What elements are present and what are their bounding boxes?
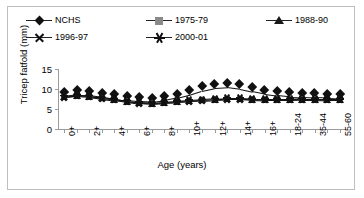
chart-figure: NCHS1975-791988-90 1996-972000-01 Tricep… xyxy=(7,6,355,190)
data-point-2000-01 xyxy=(286,95,294,103)
data-point-2000-01 xyxy=(185,96,193,104)
x-tick-label: 12+ xyxy=(219,121,228,136)
diamond-marker-icon xyxy=(35,16,45,26)
data-point-2000-01 xyxy=(60,92,68,100)
x-tick xyxy=(240,130,241,133)
y-tick xyxy=(55,109,58,110)
x-tick xyxy=(327,130,328,133)
x-tick xyxy=(290,130,291,133)
legend-row-1: NCHS1975-791988-90 xyxy=(8,13,356,28)
x-tick xyxy=(302,130,303,133)
x-tick xyxy=(340,130,341,133)
x-tick-label: 14+ xyxy=(244,121,253,136)
x-tick xyxy=(277,130,278,133)
y-tick xyxy=(55,129,58,130)
square-marker-icon xyxy=(155,17,163,25)
legend-label: NCHS xyxy=(55,16,81,25)
data-point-2000-01 xyxy=(298,95,306,103)
x-tick xyxy=(315,130,316,133)
y-tick-label: 15 xyxy=(34,65,52,74)
x-tick xyxy=(202,130,203,133)
data-point-2000-01 xyxy=(336,95,344,103)
data-point-2000-01 xyxy=(98,93,106,101)
y-axis-title: Tricep fatfold (mm) xyxy=(18,6,29,124)
x-axis-title: Age (years) xyxy=(8,159,356,170)
legend-line-sample xyxy=(266,15,292,26)
x-tick xyxy=(127,130,128,133)
legend-line-sample xyxy=(26,15,52,26)
y-axis-line xyxy=(58,69,59,129)
data-point-2000-01 xyxy=(323,95,331,103)
data-point-2000-01 xyxy=(160,98,168,106)
data-point-2000-01 xyxy=(173,97,181,105)
legend-item-2000-01[interactable]: 2000-01 xyxy=(146,30,208,45)
x-tick-label: 16+ xyxy=(269,121,278,136)
x-tick-label: 10+ xyxy=(193,121,202,136)
data-point-2000-01 xyxy=(236,94,244,102)
y-tick-label: 5 xyxy=(34,105,52,114)
triangle-marker-icon xyxy=(274,16,284,24)
data-point-2000-01 xyxy=(123,97,131,105)
data-point-2000-01 xyxy=(248,95,256,103)
x-tick xyxy=(252,130,253,133)
y-tick-label: 10 xyxy=(34,85,52,94)
data-point-2000-01 xyxy=(311,95,319,103)
x-tick xyxy=(89,130,90,133)
x-tick xyxy=(64,130,65,133)
x-tick xyxy=(102,130,103,133)
x-tick xyxy=(152,130,153,133)
legend-item-1996-97[interactable]: 1996-97 xyxy=(26,30,88,45)
legend-label: 1988-90 xyxy=(295,16,328,25)
legend-label: 1975-79 xyxy=(175,16,208,25)
y-tick xyxy=(55,89,58,90)
x-tick xyxy=(227,130,228,133)
x-tick xyxy=(164,130,165,133)
data-point-2000-01 xyxy=(73,91,81,99)
data-point-2000-01 xyxy=(198,95,206,103)
legend-label: 2000-01 xyxy=(175,33,208,42)
legend-item-nchs[interactable]: NCHS xyxy=(26,13,81,28)
legend-line-sample xyxy=(26,32,52,43)
x-tick-label: 55-60 xyxy=(344,113,353,136)
legend-item-1975-79[interactable]: 1975-79 xyxy=(146,13,208,28)
data-point-2000-01 xyxy=(211,95,219,103)
data-point-2000-01 xyxy=(273,95,281,103)
chart-legend: NCHS1975-791988-90 1996-972000-01 xyxy=(8,13,356,47)
x-tick xyxy=(265,130,266,133)
data-point-2000-01 xyxy=(148,99,156,107)
x-marker-icon xyxy=(34,33,45,42)
y-tick-label: 0 xyxy=(34,125,52,134)
x-tick xyxy=(77,130,78,133)
x-tick xyxy=(114,130,115,133)
x-tick xyxy=(177,130,178,133)
legend-label: 1996-97 xyxy=(55,33,88,42)
plot-area: 0510150+2+4+6+8+10+12+14+16+18-2435-4455… xyxy=(58,69,346,129)
data-point-2000-01 xyxy=(223,94,231,102)
x-tick xyxy=(189,130,190,133)
legend-line-sample xyxy=(146,32,172,43)
legend-item-1988-90[interactable]: 1988-90 xyxy=(266,13,328,28)
y-tick xyxy=(55,69,58,70)
data-point-2000-01 xyxy=(85,92,93,100)
legend-line-sample xyxy=(146,15,172,26)
x-tick xyxy=(215,130,216,133)
star-marker-icon xyxy=(154,33,165,43)
legend-row-2: 1996-972000-01 xyxy=(8,30,356,45)
data-point-2000-01 xyxy=(135,98,143,106)
x-tick xyxy=(139,130,140,133)
data-point-2000-01 xyxy=(261,95,269,103)
data-point-2000-01 xyxy=(110,95,118,103)
